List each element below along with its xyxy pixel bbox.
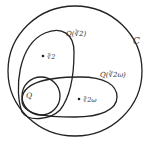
field-extension-diagram: C Q(∛2) Q(∛2ω) Q ∛2 ∛2ω — [0, 0, 150, 145]
set-Q-cbrt2-boundary — [18, 30, 74, 118]
point-cbrt2-omega-dot — [78, 98, 81, 101]
label-C: C — [133, 36, 140, 46]
label-Q-cbrt2: Q(∛2) — [66, 29, 86, 38]
label-point-cbrt2: ∛2 — [47, 52, 55, 61]
set-Q-cbrt2-omega-boundary — [22, 77, 117, 117]
point-cbrt2-dot — [42, 55, 45, 58]
label-Q: Q — [26, 91, 32, 100]
label-point-cbrt2-omega: ∛2ω — [83, 95, 97, 104]
label-Q-cbrt2-omega: Q(∛2ω) — [100, 70, 126, 79]
